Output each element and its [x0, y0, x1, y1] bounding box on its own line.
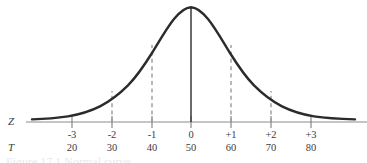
t-tick-label-20: 20: [52, 143, 92, 154]
t-tick-label-80: 80: [291, 143, 331, 154]
normal-curve-figure: Z T -3 -2 -1 0 +1 +2 +3 20 30 40 50 60 7…: [0, 0, 367, 163]
t-tick-label-60: 60: [211, 143, 251, 154]
z-axis-label: Z: [8, 116, 14, 127]
z-tick-label-minus1: -1: [132, 130, 172, 141]
z-tick-label-plus1: +1: [211, 130, 251, 141]
z-tick-label-zero: 0: [171, 130, 211, 141]
z-tick-label-minus2: -2: [92, 130, 132, 141]
t-tick-label-30: 30: [92, 143, 132, 154]
z-tick-label-plus2: +2: [251, 130, 291, 141]
t-axis-label: T: [8, 142, 14, 153]
t-tick-label-40: 40: [132, 143, 172, 154]
z-tick-label-minus3: -3: [52, 130, 92, 141]
normal-distribution-curve: [32, 7, 355, 119]
t-tick-label-50: 50: [171, 143, 211, 154]
z-tick-label-plus3: +3: [291, 130, 331, 141]
figure-caption: Figure 17.1 Normal curve: [6, 156, 131, 163]
t-tick-label-70: 70: [251, 143, 291, 154]
